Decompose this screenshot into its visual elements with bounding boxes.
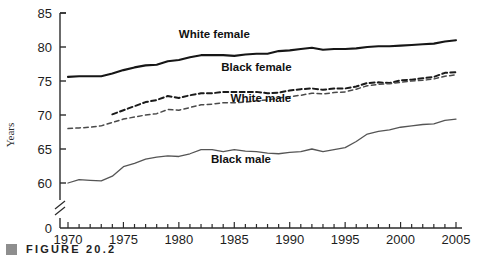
y-axis-tick-label: 85 [38,6,52,21]
y-axis-title: Years [4,123,16,148]
x-axis-tick-label: 1985 [220,232,249,247]
x-axis-tick-label: 2005 [442,232,471,247]
x-axis-tick-label: 1990 [275,232,304,247]
figure-caption: FIGURE 20.2 [6,243,116,255]
caption-label: FIGURE 20.2 [26,243,116,255]
figure-container: 6065707580850Years1970197519801985199019… [0,0,484,266]
series-label-black-male: Black male [211,153,271,165]
x-axis-tick-label: 1995 [331,232,360,247]
series-label-white-male: White male [231,92,292,104]
life-expectancy-line-chart: 6065707580850Years1970197519801985199019… [0,0,484,266]
series-label-black-female: Black female [221,61,291,73]
y-axis-zero-label: 0 [45,221,52,236]
series-line-black-male [68,119,456,183]
x-axis-tick-label: 1980 [164,232,193,247]
y-axis-tick-label: 65 [38,142,52,157]
series-label-white-female: White female [179,28,250,40]
x-axis-tick-label: 2000 [386,232,415,247]
y-axis-tick-label: 60 [38,176,52,191]
y-axis-tick-label: 80 [38,40,52,55]
caption-square-icon [6,244,17,255]
y-axis-tick-label: 75 [38,74,52,89]
y-axis-tick-label: 70 [38,108,52,123]
